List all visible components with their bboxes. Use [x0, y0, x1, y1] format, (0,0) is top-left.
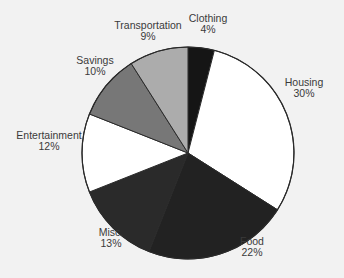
slice-label-percent: 22%: [240, 247, 264, 258]
slice-label-savings: Savings10%: [76, 55, 113, 77]
slice-label-percent: 12%: [16, 141, 81, 152]
slice-label-percent: 4%: [189, 24, 228, 35]
slice-label-percent: 10%: [76, 66, 113, 77]
slice-label-entertainment: Entertainment12%: [16, 130, 81, 152]
slice-label-misc: Misc.13%: [99, 227, 124, 249]
slice-label-percent: 9%: [114, 31, 181, 42]
pie-chart: Clothing4%Housing30%Food22%Misc.13%Enter…: [0, 0, 344, 278]
slice-label-clothing: Clothing4%: [189, 13, 228, 35]
slice-label-percent: 13%: [99, 238, 124, 249]
slice-label-housing: Housing30%: [285, 77, 324, 99]
slice-label-transportation: Transportation9%: [114, 20, 181, 42]
slice-label-percent: 30%: [285, 88, 324, 99]
slice-label-food: Food22%: [240, 236, 264, 258]
